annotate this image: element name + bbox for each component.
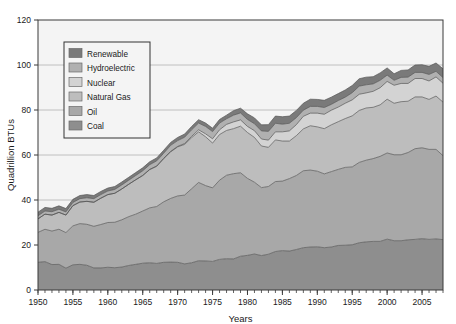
legend-swatch-nuclear — [69, 78, 82, 87]
y-axis-title: Quadrillion BTUs — [5, 119, 16, 191]
legend-label-natural-gas: Natural Gas — [87, 93, 131, 102]
legend-label-renewable: Renewable — [87, 50, 128, 59]
x-tick-label: 1980 — [238, 297, 257, 307]
x-tick-label: 1960 — [98, 297, 117, 307]
y-tick-label: 120 — [17, 15, 31, 25]
x-tick-label: 2000 — [378, 297, 397, 307]
x-axis-title: Years — [229, 313, 253, 324]
x-tick-label: 1955 — [63, 297, 82, 307]
legend-swatch-coal — [69, 121, 82, 130]
y-tick-label: 40 — [22, 195, 32, 205]
legend-label-nuclear: Nuclear — [87, 79, 115, 88]
y-tick-label: 60 — [22, 150, 32, 160]
x-tick-label: 1985 — [273, 297, 292, 307]
legend-swatch-renewable — [69, 49, 82, 58]
y-tick-label: 100 — [17, 60, 31, 70]
legend-swatch-hydroelectric — [69, 63, 82, 72]
y-tick-label: 20 — [22, 240, 32, 250]
legend-label-coal: Coal — [87, 122, 104, 131]
x-tick-label: 2005 — [413, 297, 432, 307]
legend-swatch-oil — [69, 107, 82, 116]
legend-swatch-natural-gas — [69, 92, 82, 101]
chart-legend: RenewableHydroelectricNuclearNatural Gas… — [64, 42, 150, 138]
x-tick-label: 1975 — [203, 297, 222, 307]
x-tick-label: 1950 — [29, 297, 48, 307]
x-tick-label: 1965 — [133, 297, 152, 307]
x-tick-label: 1970 — [168, 297, 187, 307]
energy-consumption-area-chart: 020406080100120 195019551960196519701975… — [0, 0, 456, 324]
legend-label-oil: Oil — [87, 108, 97, 117]
legend-label-hydroelectric: Hydroelectric — [87, 64, 135, 73]
y-tick-label: 0 — [26, 285, 31, 295]
x-tick-label: 1990 — [308, 297, 327, 307]
y-tick-label: 80 — [22, 105, 32, 115]
x-tick-label: 1995 — [343, 297, 362, 307]
chart-canvas: 020406080100120 195019551960196519701975… — [0, 0, 456, 324]
